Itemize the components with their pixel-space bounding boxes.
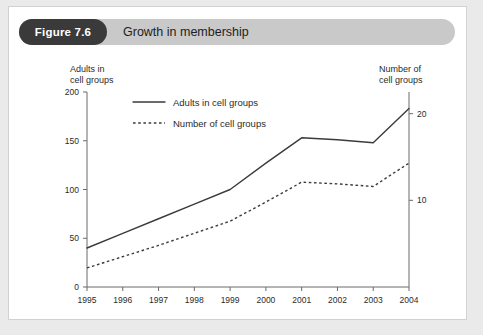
svg-text:50: 50 [70,233,80,243]
left-axis-title-line2: cell groups [70,75,114,85]
svg-text:1997: 1997 [149,295,168,305]
svg-text:1999: 1999 [221,295,240,305]
chart-area: Adults in cell groups Number of cell gro… [9,47,468,319]
svg-text:1996: 1996 [113,295,132,305]
svg-text:2004: 2004 [400,295,419,305]
series-number-of-cell-groups [87,163,409,268]
page-background: Figure 7.6 Growth in membership Adults i… [0,0,483,335]
right-axis-title-line2: cell groups [379,75,423,85]
left-axis: 050100150200 [65,87,87,292]
svg-text:20: 20 [417,109,427,119]
svg-text:200: 200 [65,87,79,97]
figure-card: Figure 7.6 Growth in membership Adults i… [8,6,467,320]
svg-text:2000: 2000 [256,295,275,305]
svg-text:1998: 1998 [185,295,204,305]
svg-text:0: 0 [74,282,79,292]
right-axis: 1020 [409,92,427,287]
figure-number-badge: Figure 7.6 [19,19,107,45]
svg-text:2002: 2002 [328,295,347,305]
bottom-axis: 1995199619971998199920002001200220032004 [78,287,419,305]
svg-text:150: 150 [65,136,79,146]
series-adults-in-cell-groups [87,109,409,248]
svg-text:10: 10 [417,195,427,205]
figure-title: Growth in membership [123,19,249,45]
legend-label-solid: Adults in cell groups [173,97,258,108]
figure-title-bar: Figure 7.6 Growth in membership [19,19,455,45]
left-axis-title-line1: Adults in [70,64,105,74]
chart-legend: Adults in cell groups Number of cell gro… [133,97,266,129]
svg-text:1995: 1995 [78,295,97,305]
svg-text:2003: 2003 [364,295,383,305]
legend-label-dotted: Number of cell groups [173,118,266,129]
svg-text:100: 100 [65,185,79,195]
svg-text:2001: 2001 [292,295,311,305]
line-chart: Adults in cell groups Number of cell gro… [9,47,468,319]
right-axis-title-line1: Number of [379,64,422,74]
